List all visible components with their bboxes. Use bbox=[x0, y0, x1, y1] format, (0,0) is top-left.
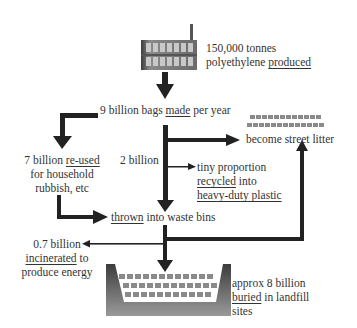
landfill-amount: approx 8 billion bbox=[232, 276, 309, 290]
thrown-keyword: thrown bbox=[111, 211, 144, 223]
made-suffix: per year bbox=[190, 104, 230, 116]
street-litter-bags-icon bbox=[247, 115, 324, 127]
recycled-label: tiny proportion recycled into heavy-duty… bbox=[197, 160, 282, 202]
arrow-reused-to-thrown bbox=[57, 195, 108, 224]
recycled-line3: heavy-duty plastic bbox=[197, 188, 282, 202]
production-keyword: produced bbox=[268, 56, 311, 68]
reused-line3: rubbish, etc bbox=[12, 181, 112, 195]
reused-line2: for household bbox=[12, 167, 112, 181]
made-label: 9 billion bags made per year bbox=[100, 103, 231, 117]
incinerated-keyword: incinerated bbox=[26, 252, 77, 264]
production-line2: polyethylene produced bbox=[206, 55, 311, 69]
recycled-line2: recycled into bbox=[197, 174, 282, 188]
landfill-line2: buried in landfill bbox=[232, 290, 309, 304]
reused-line1: 7 billion re-used bbox=[12, 153, 112, 167]
recycled-line1: tiny proportion bbox=[197, 160, 282, 174]
landfill-line3: sites bbox=[232, 304, 309, 318]
thrown-label: thrown into waste bins bbox=[111, 210, 215, 224]
landfill-label: approx 8 billion buried in landfill site… bbox=[232, 276, 309, 318]
incinerated-label: 0.7 billion incinerated to produce energ… bbox=[16, 237, 98, 279]
made-keyword: made bbox=[166, 104, 191, 116]
two-billion-label: 2 billion bbox=[120, 153, 159, 167]
reused-amount: 7 billion bbox=[24, 154, 66, 166]
reused-label: 7 billion re-used for household rubbish,… bbox=[12, 153, 112, 195]
reused-keyword: re-used bbox=[66, 154, 100, 166]
incinerated-line2: incinerated to bbox=[16, 251, 98, 265]
incinerated-line2-suffix: to bbox=[77, 252, 89, 264]
landfill-pit-icon bbox=[106, 264, 231, 316]
recycled-keyword: recycled bbox=[197, 175, 236, 187]
litter-label: become street litter bbox=[246, 132, 334, 146]
incinerated-line3: produce energy bbox=[16, 265, 98, 279]
incinerated-amount: 0.7 billion bbox=[16, 237, 98, 251]
production-material: polyethylene bbox=[206, 56, 268, 68]
thrown-suffix: into waste bins bbox=[144, 211, 216, 223]
production-amount: 150,000 tonnes bbox=[206, 41, 311, 55]
arrow-made-to-reused bbox=[53, 113, 98, 149]
made-amount: 9 billion bags bbox=[100, 104, 166, 116]
arrow-production-to-made bbox=[156, 72, 174, 99]
factory-icon bbox=[141, 24, 197, 70]
production-label: 150,000 tonnes polyethylene produced bbox=[206, 41, 311, 69]
landfill-keyword: buried bbox=[232, 291, 261, 303]
landfill-line2-suffix: in landfill bbox=[261, 291, 309, 303]
recycled-line2-suffix: into bbox=[236, 175, 257, 187]
